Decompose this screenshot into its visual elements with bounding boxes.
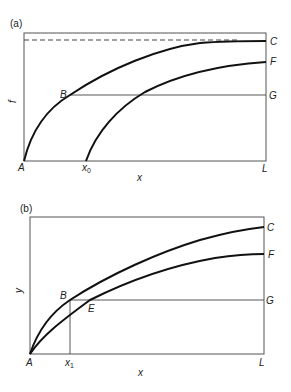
point-F-label-b: F xyxy=(268,249,275,260)
x1-label: x1 xyxy=(64,357,74,369)
panel-a-curve-x0F xyxy=(86,62,266,161)
panel-b-frame xyxy=(30,217,264,354)
point-B-label: B xyxy=(60,89,67,100)
point-L-label-b: L xyxy=(259,357,265,368)
panel-b-y-axis-label: y xyxy=(13,287,24,294)
panel-a-x-axis-label: x xyxy=(136,172,143,183)
point-E-label-b: E xyxy=(88,303,95,314)
panel-b-x-axis-label: x xyxy=(137,367,144,378)
panel-b: (b) y A B E C F G L x1 x xyxy=(13,203,275,378)
point-C-label: C xyxy=(270,36,278,47)
diagram: (a) f A B C F G L x0 x (b) y A B E C F G… xyxy=(0,0,291,392)
panel-a-label: (a) xyxy=(10,18,22,29)
panel-b-label: (b) xyxy=(20,203,32,214)
point-A-label-b: A xyxy=(25,357,33,368)
point-G-label-b: G xyxy=(266,295,274,306)
panel-a: (a) f A B C F G L x0 x xyxy=(7,18,278,183)
panel-a-curve-AC xyxy=(24,41,266,161)
point-L-label: L xyxy=(262,163,268,174)
point-B-label-b: B xyxy=(60,290,67,301)
x0-label: x0 xyxy=(81,162,91,174)
point-F-label: F xyxy=(270,56,277,67)
point-C-label-b: C xyxy=(267,222,275,233)
panel-a-y-axis-label: f xyxy=(7,99,18,103)
point-G-label: G xyxy=(269,90,277,101)
point-A-label: A xyxy=(17,162,25,173)
